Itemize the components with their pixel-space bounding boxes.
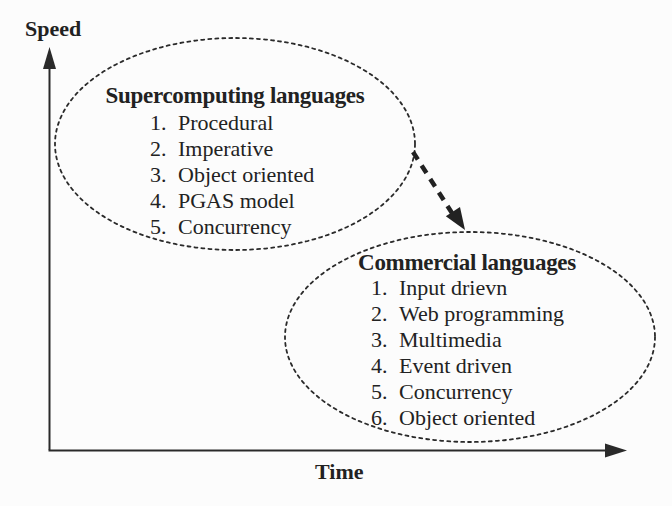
item-label: PGAS model xyxy=(178,188,295,214)
list-item: 1. Procedural xyxy=(150,110,314,136)
item-label: Web programming xyxy=(399,301,564,327)
list-item: 5. Concurrency xyxy=(371,379,564,405)
list-item: 6. Object oriented xyxy=(371,405,564,431)
item-number: 5. xyxy=(150,214,174,240)
item-number: 4. xyxy=(150,188,174,214)
item-number: 4. xyxy=(371,353,395,379)
item-label: Multimedia xyxy=(399,327,502,353)
item-number: 3. xyxy=(371,327,395,353)
item-label: Input drievn xyxy=(399,275,507,301)
commercial-language-list: 1. Input drievn 2. Web programming 3. Mu… xyxy=(371,275,564,431)
item-label: Object oriented xyxy=(178,162,314,188)
list-item: 5. Concurrency xyxy=(150,214,314,240)
x-axis-label: Time xyxy=(315,459,363,485)
list-item: 3. Multimedia xyxy=(371,327,564,353)
item-label: Object oriented xyxy=(399,405,535,431)
list-item: 3. Object oriented xyxy=(150,162,314,188)
item-label: Concurrency xyxy=(178,214,292,240)
item-number: 3. xyxy=(150,162,174,188)
item-label: Concurrency xyxy=(399,379,513,405)
list-item: 2. Imperative xyxy=(150,136,314,162)
item-number: 1. xyxy=(150,110,174,136)
list-item: 4. PGAS model xyxy=(150,188,314,214)
list-item: 2. Web programming xyxy=(371,301,564,327)
item-number: 1. xyxy=(371,275,395,301)
group-title-commercial: Commercial languages xyxy=(287,250,647,276)
item-number: 6. xyxy=(371,405,395,431)
y-axis-label: Speed xyxy=(25,16,81,42)
supercomputing-language-list: 1. Procedural 2. Imperative 3. Object or… xyxy=(150,110,314,240)
item-label: Imperative xyxy=(178,136,273,162)
x-axis-arrowhead-icon xyxy=(605,444,627,458)
item-number: 2. xyxy=(150,136,174,162)
y-axis-arrowhead-icon xyxy=(43,47,56,69)
figure: Speed Time Supercomputing languages 1. P… xyxy=(0,0,672,506)
item-label: Procedural xyxy=(178,110,273,136)
item-number: 2. xyxy=(371,301,395,327)
item-label: Event driven xyxy=(399,353,512,379)
item-number: 5. xyxy=(371,379,395,405)
list-item: 4. Event driven xyxy=(371,353,564,379)
group-title-supercomputing: Supercomputing languages xyxy=(57,83,413,109)
list-item: 1. Input drievn xyxy=(371,275,564,301)
connector-dashed-line xyxy=(413,152,452,213)
